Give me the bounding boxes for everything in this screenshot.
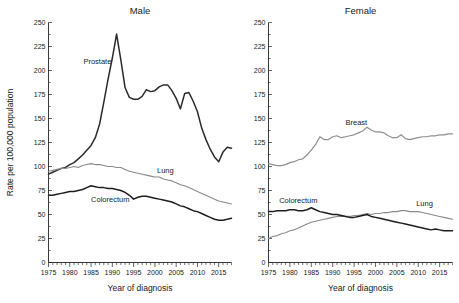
y-tick-label-female-25: 25	[258, 235, 266, 242]
x-tick-label-male-1980: 1980	[62, 269, 78, 276]
series-label-female-breast: Breast	[346, 118, 369, 127]
x-tick-label-female-2015: 2015	[432, 269, 448, 276]
x-tick-label-male-2015: 2015	[211, 269, 227, 276]
y-tick-label-male-200: 200	[34, 67, 46, 74]
x-tick-label-male-2000: 2000	[147, 269, 163, 276]
x-axis-title-male: Year of diagnosis	[108, 283, 173, 293]
y-tick-label-female-125: 125	[254, 139, 266, 146]
x-tick-label-female-2005: 2005	[389, 269, 405, 276]
x-tick-label-male-2005: 2005	[168, 269, 184, 276]
series-line-male-prostate	[49, 34, 232, 174]
x-tick-label-female-1980: 1980	[282, 269, 298, 276]
x-tick-label-male-2010: 2010	[190, 269, 206, 276]
x-axis-title-female: Year of diagnosis	[328, 283, 393, 293]
series-line-female-lung	[269, 211, 453, 239]
panel-title-male: Male	[130, 5, 151, 16]
x-tick-label-female-2000: 2000	[368, 269, 384, 276]
x-tick-label-male-1995: 1995	[126, 269, 142, 276]
y-tick-label-female-0: 0	[262, 259, 266, 266]
y-tick-label-male-125: 125	[34, 139, 46, 146]
panel-title-female: Female	[345, 5, 377, 16]
x-tick-label-female-1995: 1995	[346, 269, 362, 276]
x-tick-label-female-1975: 1975	[261, 269, 277, 276]
x-tick-label-female-1985: 1985	[304, 269, 320, 276]
chart-figure: Male025507510012515017520022525019751980…	[0, 0, 459, 303]
series-line-male-lung	[49, 164, 232, 204]
series-label-male-lung: Lung	[157, 166, 174, 175]
y-tick-label-female-250: 250	[254, 19, 266, 26]
y-tick-label-female-150: 150	[254, 115, 266, 122]
y-tick-label-female-50: 50	[258, 211, 266, 218]
series-line-male-colorectum	[49, 186, 232, 221]
y-tick-label-female-175: 175	[254, 91, 266, 98]
y-tick-label-male-50: 50	[38, 211, 46, 218]
y-tick-label-female-100: 100	[254, 163, 266, 170]
y-tick-label-female-75: 75	[258, 187, 266, 194]
y-tick-label-female-200: 200	[254, 67, 266, 74]
series-label-female-colorectum: Colorectum	[279, 196, 317, 205]
y-tick-label-male-250: 250	[34, 19, 46, 26]
y-tick-label-male-100: 100	[34, 163, 46, 170]
x-tick-label-female-2010: 2010	[410, 269, 426, 276]
x-tick-label-male-1975: 1975	[41, 269, 57, 276]
x-tick-label-female-1990: 1990	[325, 269, 341, 276]
series-line-female-colorectum	[269, 208, 453, 231]
y-tick-label-female-225: 225	[254, 43, 266, 50]
series-label-male-colorectum: Colorectum	[91, 195, 129, 204]
cancer-incidence-rates-chart: Male025507510012515017520022525019751980…	[0, 0, 459, 303]
y-tick-label-male-175: 175	[34, 91, 46, 98]
series-label-female-lung: Lung	[416, 199, 433, 208]
y-axis-title: Rate per 100,000 population	[5, 89, 15, 197]
series-label-male-prostate: Prostate	[83, 57, 111, 66]
y-tick-label-male-25: 25	[38, 235, 46, 242]
x-tick-label-male-1985: 1985	[83, 269, 99, 276]
y-tick-label-male-225: 225	[34, 43, 46, 50]
y-tick-label-male-0: 0	[42, 259, 46, 266]
x-tick-label-male-1990: 1990	[105, 269, 121, 276]
y-tick-label-male-75: 75	[38, 187, 46, 194]
y-tick-label-male-150: 150	[34, 115, 46, 122]
series-line-female-breast	[269, 127, 453, 165]
